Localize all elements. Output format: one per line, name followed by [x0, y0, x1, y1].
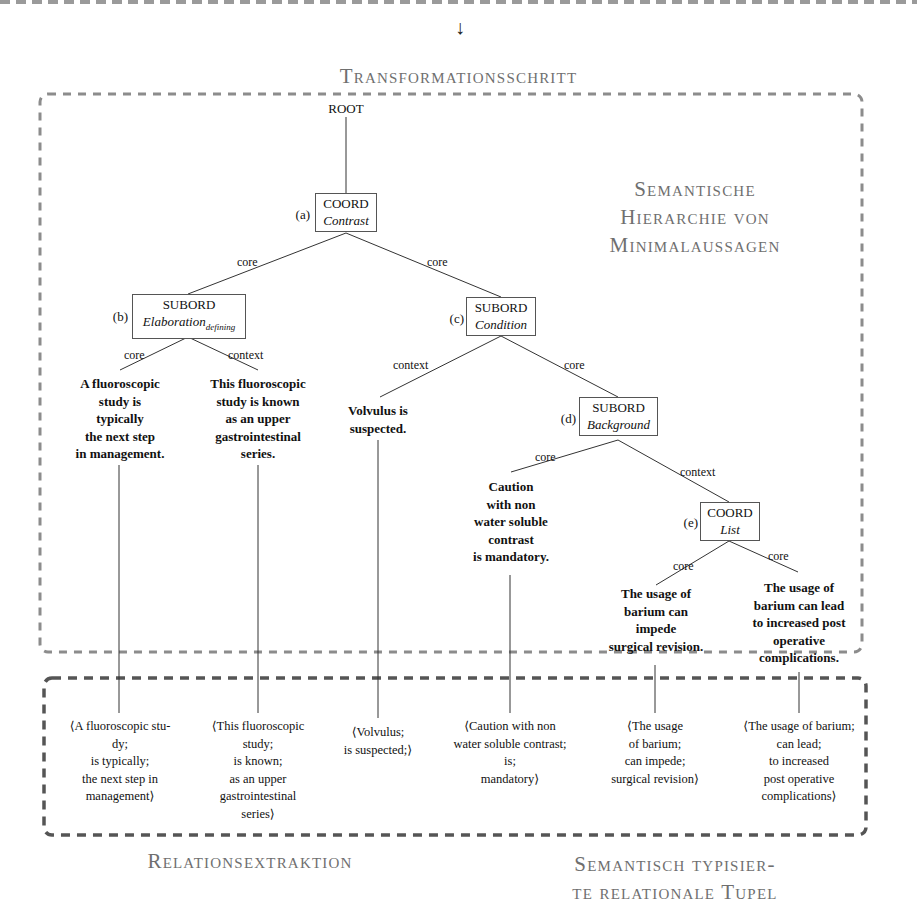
node-relation: List: [707, 521, 753, 538]
semantic-hierarchy-title: Semantische Hierarchie von Minimalaussag…: [565, 175, 825, 259]
node-relation: Condition: [473, 316, 529, 333]
node-label-d: (d): [552, 411, 576, 427]
node-relation: Contrast: [322, 212, 370, 229]
node-relation: Background: [586, 416, 651, 433]
node-type: SUBORD: [586, 399, 651, 416]
previous-section-border: [0, 0, 917, 4]
tuple-6: ⟨The usage of barium; can lead; to incre…: [732, 718, 866, 806]
edge-label-d-e: context: [680, 465, 715, 480]
leaf-proposition-1: A fluoroscopic study is typically the ne…: [59, 375, 181, 463]
relation-extraction-title: Relationsextraktion: [130, 847, 370, 875]
leaf-proposition-6: The usage of barium can lead to increase…: [740, 579, 858, 667]
tuple-2: ⟨This fluoroscopic study; is known; as a…: [198, 718, 318, 823]
node-type: COORD: [707, 504, 753, 521]
edge-label-d-leaf4: core: [535, 450, 556, 465]
root-node: ROOT: [316, 101, 376, 117]
relation-name: Elaboration: [143, 314, 206, 329]
edge-label-b-leaf2: context: [228, 348, 263, 363]
leaf-proposition-4: Caution with non water soluble contrast …: [460, 478, 562, 566]
node-a-coord-contrast: COORD Contrast: [315, 193, 377, 232]
edge-label-a-b: core: [237, 255, 258, 270]
edge-label-c-leaf3: context: [393, 358, 428, 373]
edge-label-e-leaf5: core: [673, 559, 694, 574]
tuple-5: ⟨The usage of barium; can impede; surgic…: [595, 718, 715, 788]
node-type: SUBORD: [473, 299, 529, 316]
title-line: Minimalaussagen: [565, 231, 825, 259]
node-b-subord-elaboration: SUBORD Elaborationdefining: [132, 294, 246, 339]
title-line: Semantisch typisier-: [545, 850, 805, 878]
node-label-e: (e): [674, 515, 698, 531]
node-label-b: (b): [104, 309, 128, 325]
node-label-c: (c): [440, 311, 464, 327]
node-type: COORD: [322, 195, 370, 212]
leaf-proposition-2: This fluoroscopic study is known as an u…: [196, 375, 320, 463]
leaf-proposition-3: Volvulus is suspected.: [338, 402, 418, 437]
down-arrow-icon: ↓: [445, 16, 475, 39]
tuple-3: ⟨Volvulus; is suspected;⟩: [330, 724, 426, 759]
title-line: te relationale Tupel: [545, 878, 805, 906]
edge-label-a-c: core: [427, 255, 448, 270]
node-type: SUBORD: [139, 296, 239, 313]
edge-label-e-leaf6: core: [768, 549, 789, 564]
node-relation: Elaborationdefining: [139, 313, 239, 336]
leaf-proposition-5: The usage of barium can impede surgical …: [598, 585, 714, 655]
title-line: Semantische: [565, 175, 825, 203]
node-c-subord-condition: SUBORD Condition: [466, 297, 536, 336]
transformation-step-title: Transformationsschritt: [0, 62, 917, 90]
edge-label-c-d: core: [564, 358, 585, 373]
relation-subscript: defining: [206, 322, 236, 332]
edge-label-b-leaf1: core: [124, 348, 145, 363]
tuple-4: ⟨Caution with non water soluble contrast…: [440, 718, 580, 788]
node-e-coord-list: COORD List: [700, 502, 760, 541]
typed-tuples-title: Semantisch typisier- te relationale Tupe…: [545, 850, 805, 906]
node-d-subord-background: SUBORD Background: [579, 397, 658, 436]
title-line: Hierarchie von: [565, 203, 825, 231]
node-label-a: (a): [286, 207, 310, 223]
tuple-1: ⟨A fluoroscopic stu- dy; is typically; t…: [55, 718, 185, 806]
